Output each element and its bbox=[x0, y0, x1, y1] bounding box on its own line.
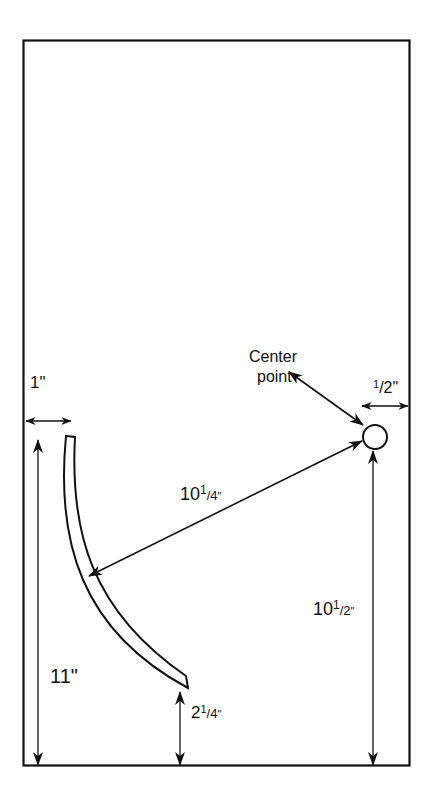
center-point-pointer-arrow bbox=[289, 372, 363, 425]
left-margin-label: 1" bbox=[30, 373, 46, 392]
arc-clearance-label: 21/4" bbox=[191, 703, 221, 722]
radius-label: 101/4" bbox=[180, 483, 222, 504]
curved-arc-strip bbox=[64, 436, 188, 688]
center-height-label: 101/2" bbox=[313, 598, 355, 619]
center-point-label-line2: point bbox=[257, 368, 292, 385]
diagram-canvas: 1" Center point 1/2" 101/4" 101/2" 11" 2… bbox=[0, 0, 437, 810]
left-height-label: 11" bbox=[50, 665, 78, 687]
center-point-circle bbox=[363, 425, 387, 449]
board-outline bbox=[24, 41, 410, 766]
radius-arrow bbox=[89, 441, 362, 576]
right-margin-label: 1/2" bbox=[373, 378, 398, 396]
center-point-label-line1: Center bbox=[249, 348, 298, 365]
